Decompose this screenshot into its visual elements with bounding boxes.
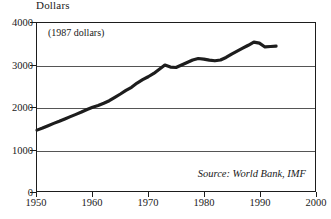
y-axis-tick-labels: 01000200030004000 [0, 0, 33, 219]
plot-area: (1987 dollars) Source: World Bank, IMF [36, 22, 316, 192]
x-tick-label-1960: 1960 [82, 197, 103, 208]
x-tick-mark-1960 [92, 192, 93, 197]
x-tick-label-2000: 2000 [306, 197, 327, 208]
series-line-chart [37, 23, 315, 191]
x-tick-mark-1970 [148, 192, 149, 197]
series-line-gdp-per-capita [37, 42, 276, 130]
chart-page: Dollars 01000200030004000 (1987 dollars)… [0, 0, 331, 219]
x-tick-label-1950: 1950 [26, 197, 47, 208]
x-tick-mark-1990 [260, 192, 261, 197]
x-tick-mark-2000 [316, 192, 317, 197]
y-tick-mark-2000 [30, 107, 36, 108]
x-tick-mark-1980 [204, 192, 205, 197]
y-tick-mark-3000 [30, 65, 36, 66]
x-tick-mark-1950 [36, 192, 37, 197]
x-tick-label-1980: 1980 [194, 197, 215, 208]
y-tick-mark-4000 [30, 22, 36, 23]
x-tick-label-1970: 1970 [138, 197, 159, 208]
y-axis-title: Dollars [36, 0, 70, 11]
x-tick-label-1990: 1990 [250, 197, 271, 208]
y-tick-mark-1000 [30, 150, 36, 151]
